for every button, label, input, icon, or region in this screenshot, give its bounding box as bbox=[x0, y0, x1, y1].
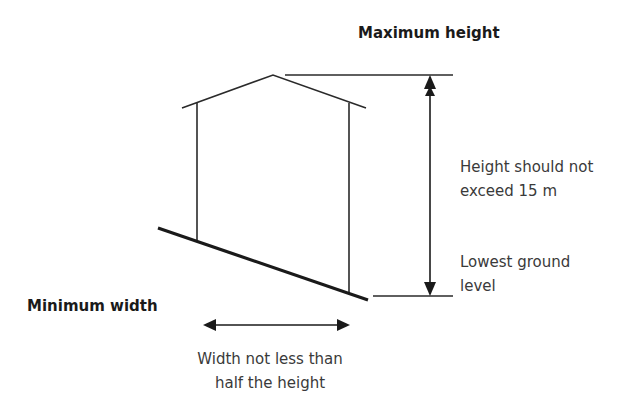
lowest-ground-label: Lowest ground level bbox=[460, 250, 570, 298]
roof bbox=[182, 75, 366, 108]
height-limit-line-2: exceed 15 m bbox=[460, 179, 593, 203]
house-outline bbox=[182, 75, 366, 293]
minimum-width-title: Minimum width bbox=[27, 297, 158, 315]
width-requirement-label: Width not less than half the height bbox=[175, 347, 365, 395]
height-limit-label: Height should not exceed 15 m bbox=[460, 155, 593, 203]
width-arrow-head-right bbox=[337, 319, 350, 331]
lowest-ground-line-2: level bbox=[460, 274, 570, 298]
lowest-ground-line-1: Lowest ground bbox=[460, 250, 570, 274]
maximum-height-title: Maximum height bbox=[358, 24, 500, 42]
width-requirement-line-2: half the height bbox=[175, 371, 365, 395]
height-arrow-head-bottom bbox=[424, 282, 436, 296]
width-requirement-line-1: Width not less than bbox=[175, 347, 365, 371]
width-arrow-head-left bbox=[203, 319, 216, 331]
height-arrow-head-top bbox=[424, 75, 436, 89]
sloped-ground-line bbox=[158, 228, 368, 300]
height-limit-line-1: Height should not bbox=[460, 155, 593, 179]
